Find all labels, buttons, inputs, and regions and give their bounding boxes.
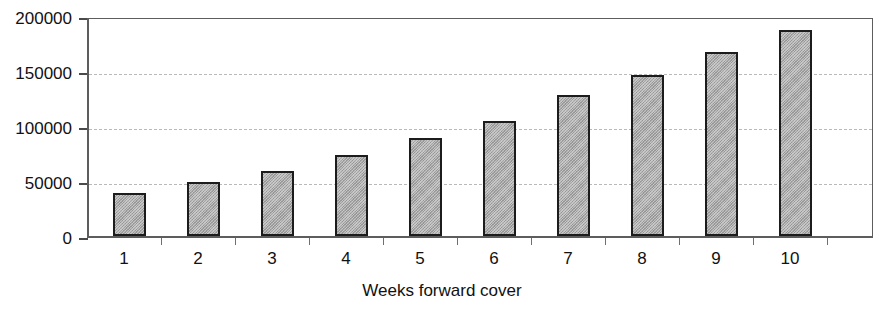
- y-axis-tick-label-200000: 200000: [0, 10, 72, 27]
- x-axis-tick-mark-7: [605, 238, 606, 245]
- x-axis-label-8: 8: [605, 249, 679, 269]
- x-axis-tick-mark-10: [827, 238, 828, 245]
- bar-4: [335, 155, 368, 236]
- x-axis-tick-mark-8: [679, 238, 680, 245]
- gridline-150000: [89, 74, 872, 75]
- x-axis-label-5: 5: [383, 249, 457, 269]
- x-axis-label-3: 3: [235, 249, 309, 269]
- x-axis-tick-mark-6: [531, 238, 532, 245]
- x-axis-tick-mark-3: [309, 238, 310, 245]
- y-axis-tick-label-150000: 150000: [0, 65, 72, 82]
- x-axis-title: Weeks forward cover: [0, 281, 884, 301]
- bar-7: [557, 95, 590, 236]
- bar-10: [779, 30, 812, 236]
- clipped-caption: [6, 309, 306, 319]
- y-axis-tick-label-100000: 100000: [0, 120, 72, 137]
- x-axis-label-2: 2: [161, 249, 235, 269]
- bar-6: [483, 121, 516, 236]
- bar-8: [631, 75, 664, 236]
- x-axis-tick-mark-9: [753, 238, 754, 245]
- plot-area: [87, 18, 873, 238]
- x-axis-label-7: 7: [531, 249, 605, 269]
- bar-3: [261, 171, 294, 236]
- x-axis-label-1: 1: [87, 249, 161, 269]
- x-axis-label-6: 6: [457, 249, 531, 269]
- bar-chart: 200000 150000 100000 50000 0 1 2 3 4 5 6…: [0, 0, 884, 319]
- y-axis-tick-label-0: 0: [0, 230, 72, 247]
- gridline-100000: [89, 129, 872, 130]
- y-axis-tick-mark-0: [79, 238, 88, 240]
- x-axis-label-9: 9: [679, 249, 753, 269]
- bar-9: [705, 52, 738, 236]
- x-axis-tick-mark-1: [161, 238, 162, 245]
- bar-5: [409, 138, 442, 236]
- bar-1: [113, 193, 146, 236]
- x-axis-label-4: 4: [309, 249, 383, 269]
- x-axis-tick-mark-2: [235, 238, 236, 245]
- y-axis-tick-label-50000: 50000: [0, 175, 72, 192]
- x-axis-tick-mark-4: [383, 238, 384, 245]
- bar-2: [187, 182, 220, 236]
- x-axis-tick-mark-5: [457, 238, 458, 245]
- x-axis-label-10: 10: [753, 249, 827, 269]
